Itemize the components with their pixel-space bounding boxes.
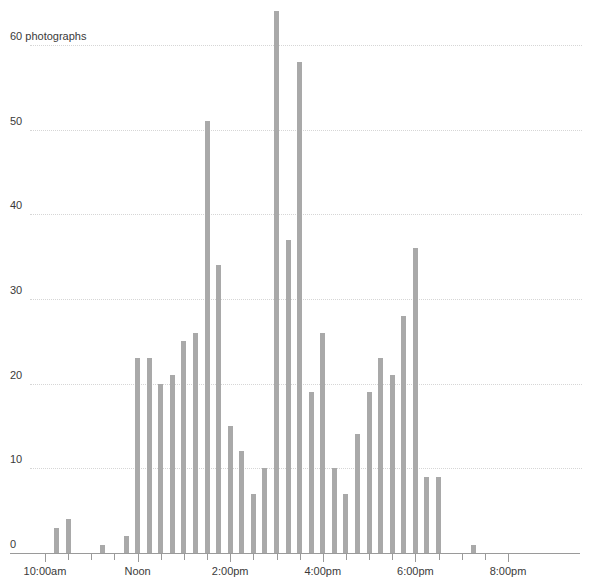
x-axis-tick bbox=[277, 554, 278, 560]
x-axis-tick bbox=[346, 554, 347, 560]
x-axis-tick bbox=[91, 554, 92, 560]
x-axis-tick-label-600pm: 6:00pm bbox=[397, 566, 434, 577]
x-axis-tick bbox=[230, 554, 231, 562]
x-axis-tick bbox=[323, 554, 324, 562]
x-axis-tick bbox=[45, 554, 46, 562]
x-axis-tick bbox=[439, 554, 440, 560]
x-axis-tick-label-800pm: 8:00pm bbox=[490, 566, 527, 577]
x-axis-tick bbox=[114, 554, 115, 560]
x-axis-tick bbox=[392, 554, 393, 560]
x-axis-tick bbox=[369, 554, 370, 560]
photographs-histogram: 0102030405060 photographs 10:00amNoon2:0… bbox=[0, 0, 598, 585]
x-axis-tick bbox=[253, 554, 254, 560]
x-axis-tick bbox=[485, 554, 486, 560]
x-axis-tick-label-200pm: 2:00pm bbox=[212, 566, 249, 577]
x-axis-line bbox=[10, 553, 580, 554]
x-axis-tick bbox=[161, 554, 162, 560]
x-axis-tick-label-noon: Noon bbox=[124, 566, 150, 577]
x-axis-tick bbox=[207, 554, 208, 560]
x-axis-tick bbox=[508, 554, 509, 562]
x-axis-tick bbox=[415, 554, 416, 562]
x-axis-tick bbox=[300, 554, 301, 560]
x-axis-tick bbox=[462, 554, 463, 560]
axis-layer: 10:00amNoon2:00pm4:00pm6:00pm8:00pm bbox=[0, 0, 598, 585]
x-axis-tick bbox=[68, 554, 69, 560]
x-axis-tick bbox=[184, 554, 185, 560]
x-axis-tick bbox=[138, 554, 139, 562]
x-axis-tick-label-400pm: 4:00pm bbox=[304, 566, 341, 577]
x-axis-tick-label-1000am: 10:00am bbox=[24, 566, 67, 577]
